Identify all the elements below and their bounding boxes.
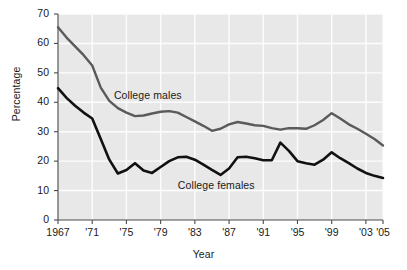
ytick-label-70: 70 xyxy=(23,8,49,19)
ytick-label-10: 10 xyxy=(23,185,49,196)
ytick-label-20: 20 xyxy=(23,155,49,166)
x-axis-ticks xyxy=(58,220,383,224)
y-axis-ticks xyxy=(54,14,58,220)
ytick-label-60: 60 xyxy=(23,37,49,48)
ytick-label-0: 0 xyxy=(23,214,49,225)
ytick-label-30: 30 xyxy=(23,126,49,137)
y-axis-title: Percentage xyxy=(10,44,22,144)
xtick-label-2005: '05 xyxy=(363,227,403,238)
series-annotation-college-females: College females xyxy=(178,179,255,191)
x-axis-title: Year xyxy=(0,248,407,260)
ytick-label-40: 40 xyxy=(23,96,49,107)
series-annotation-college-males: College males xyxy=(114,89,182,101)
percentage-by-year-line-chart: Percentage Year 010203040506070 1967'71'… xyxy=(0,0,407,270)
ytick-label-50: 50 xyxy=(23,67,49,78)
